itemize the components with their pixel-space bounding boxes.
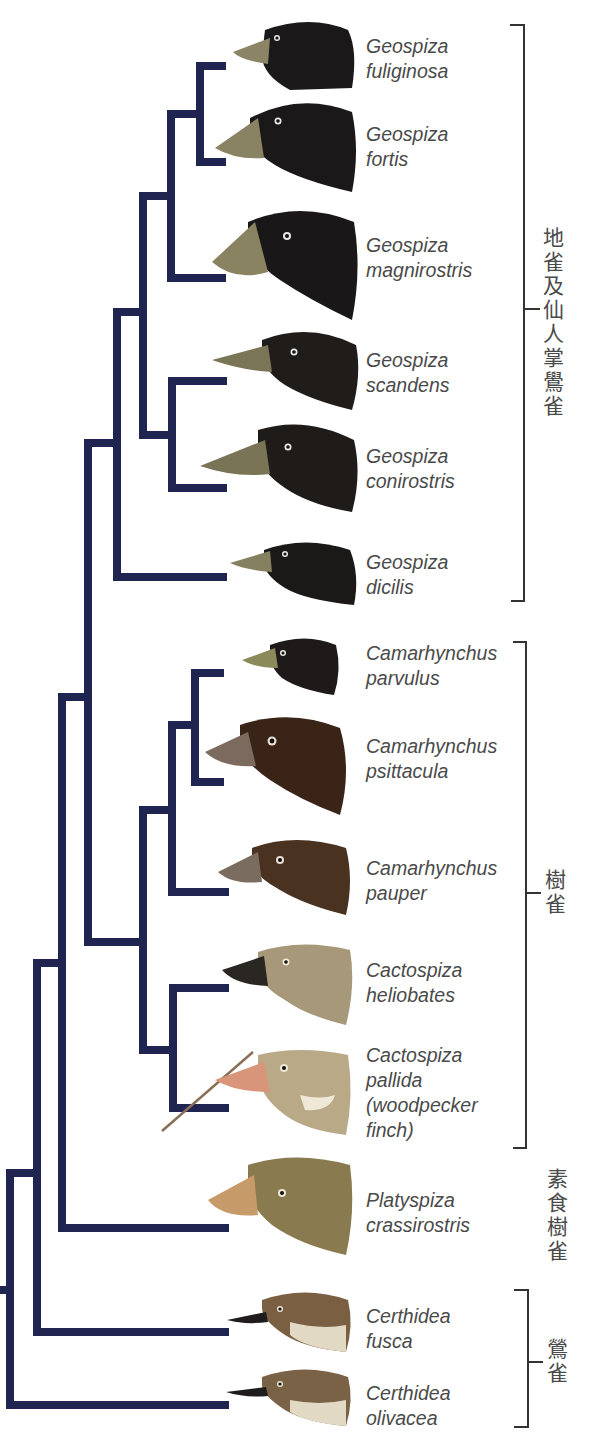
species-label-cactospiza-pallida: Cactospiza pallida (woodpecker finch) — [366, 1043, 476, 1143]
species-label-geospiza-conirostris: Geospiza conirostris — [366, 444, 455, 494]
bracket-ground-finches — [510, 25, 540, 601]
bracket-warbler-finches — [514, 1290, 543, 1427]
bird-head-geospiza-dicilis — [230, 543, 356, 606]
epithet: heliobates — [366, 983, 462, 1008]
bracket-tree-finches — [513, 642, 541, 1148]
epithet: pauper — [366, 881, 497, 906]
epithet: olivacea — [366, 1406, 451, 1431]
group-label-warbler-finches: 鶯雀 — [545, 1337, 569, 1385]
bird-head-geospiza-scandens — [212, 332, 358, 410]
branch-node-root — [10, 1173, 225, 1405]
genus: Platyspiza — [366, 1188, 470, 1213]
epithet: pallida — [366, 1068, 476, 1093]
genus: Geospiza — [366, 444, 455, 469]
bird-head-platyspiza-crassirostris — [208, 1158, 352, 1256]
group-label-vegetarian-tree-finch: 素食樹雀 — [545, 1167, 569, 1263]
genus: Geospiza — [366, 233, 472, 258]
bird-head-geospiza-fortis — [215, 103, 356, 192]
species-label-certhidea-olivacea: Certhidea olivacea — [366, 1381, 451, 1431]
bird-head-camarhynchus-psittacula — [205, 717, 346, 815]
bird-head-cactospiza-pallida — [162, 1050, 351, 1135]
epithet: psittacula — [366, 759, 497, 784]
epithet: conirostris — [366, 469, 455, 494]
genus: Geospiza — [366, 550, 448, 575]
bird-head-geospiza-conirostris — [200, 424, 358, 512]
bird-head-camarhynchus-pauper — [218, 840, 350, 915]
species-label-cactospiza-heliobates: Cactospiza heliobates — [366, 958, 462, 1008]
species-label-geospiza-dicilis: Geospiza dicilis — [366, 550, 448, 600]
genus: Camarhynchus — [366, 856, 497, 881]
species-label-camarhynchus-pauper: Camarhynchus pauper — [366, 856, 497, 906]
epithet: crassirostris — [366, 1213, 470, 1238]
genus: Geospiza — [366, 34, 448, 59]
genus: Geospiza — [366, 348, 449, 373]
group-label-tree-finches: 樹雀 — [543, 868, 567, 916]
epithet: fusca — [366, 1329, 451, 1354]
epithet: fuliginosa — [366, 59, 448, 84]
genus: Cactospiza — [366, 1043, 476, 1068]
epithet: scandens — [366, 373, 449, 398]
epithet: magnirostris — [366, 258, 472, 283]
genus: Certhidea — [366, 1381, 451, 1406]
species-label-geospiza-magnirostris: Geospiza magnirostris — [366, 233, 472, 283]
bird-head-geospiza-fuliginosa — [233, 22, 354, 90]
species-label-geospiza-fortis: Geospiza fortis — [366, 122, 448, 172]
genus: Cactospiza — [366, 958, 462, 983]
group-label-ground-cactus-finches: 地雀及仙人掌鷽雀 — [541, 226, 565, 418]
common-name: (woodpecker finch) — [366, 1093, 476, 1143]
species-label-platyspiza-crassirostris: Platyspiza crassirostris — [366, 1188, 470, 1238]
species-label-geospiza-fuliginosa: Geospiza fuliginosa — [366, 34, 448, 84]
genus: Certhidea — [366, 1304, 451, 1329]
epithet: fortis — [366, 147, 448, 172]
species-label-certhidea-fusca: Certhidea fusca — [366, 1304, 451, 1354]
genus: Geospiza — [366, 122, 448, 147]
species-label-geospiza-scandens: Geospiza scandens — [366, 348, 449, 398]
phylogenetic-tree — [0, 0, 601, 1446]
bird-head-certhidea-fusca — [227, 1293, 351, 1353]
epithet: parvulus — [366, 666, 497, 691]
epithet: dicilis — [366, 575, 448, 600]
branch-node-heliobates-pallida — [173, 988, 225, 1108]
bird-head-camarhynchus-parvulus — [242, 639, 339, 696]
group-brackets — [510, 25, 543, 1427]
species-label-camarhynchus-psittacula: Camarhynchus psittacula — [366, 734, 497, 784]
species-label-camarhynchus-parvulus: Camarhynchus parvulus — [366, 641, 497, 691]
bird-head-cactospiza-heliobates — [222, 944, 352, 1025]
bird-head-geospiza-magnirostris — [212, 211, 358, 320]
genus: Camarhynchus — [366, 641, 497, 666]
genus: Camarhynchus — [366, 734, 497, 759]
branch-node-scandens-conirostris — [172, 381, 223, 488]
tree-branches — [0, 66, 225, 1405]
bird-head-certhidea-olivacea — [226, 1370, 351, 1427]
